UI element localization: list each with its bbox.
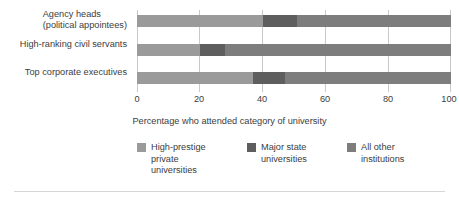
category-label-agency-heads: Agency heads (political appointees) (43, 9, 127, 31)
x-tick-40: 40 (257, 93, 267, 105)
x-axis-tick-labels: 0 20 40 60 80 100 (0, 93, 459, 107)
bar-segment-major-state (263, 15, 298, 27)
category-label-line1: Top corporate executives (25, 67, 127, 78)
bar-segment-major-state (200, 44, 225, 56)
bar-segment-all-other (225, 44, 451, 56)
stacked-bar-chart-figure: Agency heads (political appointees) High… (0, 0, 459, 200)
category-label-line2: (political appointees) (43, 20, 127, 31)
x-tick-60: 60 (320, 93, 330, 105)
legend-item-major-state: Major state universities (247, 142, 342, 165)
bar-segment-all-other (285, 72, 451, 84)
plot-area (137, 10, 451, 92)
category-label-high-ranking-civil-servants: High-ranking civil servants (20, 39, 127, 50)
category-label-line1: Agency heads (43, 9, 127, 20)
bar-agency-heads (137, 15, 451, 27)
legend-item-high-prestige: High-prestige private universities (137, 142, 237, 177)
bar-high-ranking-civil-servants (137, 44, 451, 56)
category-label-line1: High-ranking civil servants (20, 39, 127, 50)
legend-item-all-other: All other institutions (347, 142, 442, 165)
legend-label: Major state universities (261, 142, 307, 165)
legend-swatch-icon (137, 143, 146, 152)
bar-segment-high-prestige (137, 44, 200, 56)
bar-segment-all-other (297, 15, 451, 27)
x-axis-title: Percentage who attended category of univ… (0, 116, 459, 126)
x-tick-20: 20 (194, 93, 204, 105)
legend: High-prestige private universities Major… (137, 142, 447, 188)
x-tick-100: 100 (441, 93, 456, 105)
legend-swatch-icon (347, 143, 356, 152)
legend-label: High-prestige private universities (151, 142, 206, 177)
bar-segment-high-prestige (137, 15, 263, 27)
category-label-top-corporate-executives: Top corporate executives (25, 67, 127, 78)
bar-segment-major-state (253, 72, 284, 84)
category-axis-labels: Agency heads (political appointees) High… (0, 10, 133, 92)
bar-segment-high-prestige (137, 72, 253, 84)
legend-swatch-icon (247, 143, 256, 152)
footer-divider (14, 191, 445, 192)
x-tick-0: 0 (134, 93, 139, 105)
legend-label: All other institutions (361, 142, 404, 165)
x-tick-80: 80 (383, 93, 393, 105)
bar-top-corporate-executives (137, 72, 451, 84)
